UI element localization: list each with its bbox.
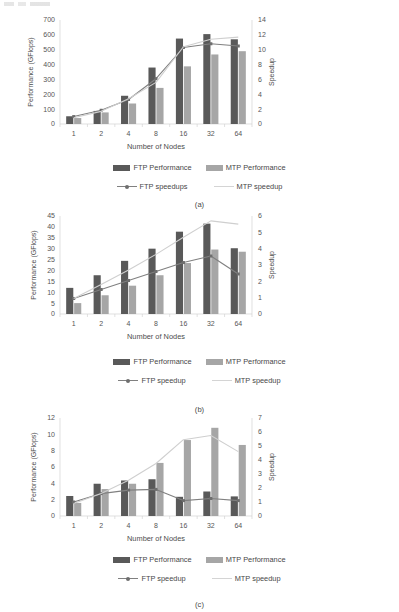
svg-text:32: 32 (207, 320, 215, 327)
svg-text:Speedup: Speedup (268, 453, 276, 481)
svg-text:16: 16 (180, 320, 188, 327)
svg-text:12: 12 (47, 414, 55, 421)
legend-label-mtp-performance: MTP Performance (226, 358, 286, 365)
svg-text:5: 5 (258, 442, 262, 449)
svg-text:700: 700 (43, 16, 55, 23)
svg-text:200: 200 (43, 91, 55, 98)
svg-text:16: 16 (180, 522, 188, 529)
ftp-bar (148, 68, 155, 124)
ftp-speedup-marker (237, 45, 240, 48)
legend-item-ftp-performance[interactable]: FTP Performance (113, 164, 191, 171)
legend-label-mtp-performance: MTP Performance (226, 164, 286, 171)
svg-text:12: 12 (258, 31, 266, 38)
legend-label-mtp-speedup: MTP speedup (235, 377, 281, 384)
mtp-bar (239, 445, 246, 516)
legend-item-ftp-speedup[interactable]: FTP speedups (117, 183, 188, 190)
svg-text:30: 30 (47, 245, 55, 252)
ftp-speedup-marker (209, 42, 212, 45)
mtp-line-swatch-icon (212, 575, 232, 582)
svg-text:5: 5 (258, 229, 262, 236)
legend-label-ftp-speedup: FTP speedup (141, 377, 185, 384)
legend-item-mtp-speedup[interactable]: MTP speedup (212, 377, 281, 384)
mtp-bar-swatch-icon (206, 359, 223, 365)
mtp-bar-swatch-icon (206, 165, 223, 171)
legend-item-mtp-speedup[interactable]: MTP speedup (212, 575, 281, 582)
legend-item-ftp-performance[interactable]: FTP Performance (113, 358, 191, 365)
legend-label-ftp-performance: FTP Performance (133, 358, 191, 365)
legend-label-ftp-performance: FTP Performance (133, 164, 191, 171)
svg-text:32: 32 (207, 522, 215, 529)
chart-a-svg: 0100200300400500600700024681012141248163… (0, 0, 399, 160)
svg-text:25: 25 (47, 256, 55, 263)
legend-item-mtp-speedup[interactable]: MTP speedup (214, 183, 283, 190)
mtp-bar (74, 503, 81, 516)
legend-item-ftp-speedup[interactable]: FTP speedup (118, 575, 185, 582)
svg-text:0: 0 (51, 512, 55, 519)
ftp-bar (94, 484, 101, 516)
mtp-bar (74, 118, 81, 124)
legend-item-ftp-speedup[interactable]: FTP speedup (118, 377, 185, 384)
legend-item-mtp-performance[interactable]: MTP Performance (206, 358, 286, 365)
svg-text:0: 0 (258, 512, 262, 519)
svg-text:Speedup: Speedup (268, 58, 276, 86)
legend-label-ftp-speedup: FTP speedup (141, 575, 185, 582)
mtp-line-swatch-icon (214, 183, 234, 190)
svg-text:4: 4 (127, 320, 131, 327)
ftp-bar (66, 496, 73, 516)
ftp-bar (231, 39, 238, 124)
svg-text:45: 45 (47, 212, 55, 219)
mtp-bar (129, 484, 136, 516)
svg-text:6: 6 (51, 463, 55, 470)
ftp-bar (94, 275, 101, 314)
figure-c: 024681012012345671248163264Number of Nod… (0, 404, 399, 609)
svg-text:64: 64 (234, 130, 242, 137)
svg-text:500: 500 (43, 46, 55, 53)
svg-text:1: 1 (72, 320, 76, 327)
mtp-bar (211, 428, 218, 516)
svg-text:64: 64 (234, 522, 242, 529)
svg-text:3: 3 (258, 470, 262, 477)
figure-b: 05101520253035404501234561248163264Numbe… (0, 204, 399, 404)
chart-c-legend: FTP Performance MTP Performance FTP spee… (75, 552, 325, 609)
legend-item-mtp-performance[interactable]: MTP Performance (206, 164, 286, 171)
legend-item-mtp-performance[interactable]: MTP Performance (206, 556, 286, 563)
svg-text:0: 0 (51, 120, 55, 127)
svg-text:5: 5 (51, 300, 55, 307)
svg-text:14: 14 (258, 16, 266, 23)
svg-text:8: 8 (154, 522, 158, 529)
legend-label-mtp-speedup: MTP speedup (237, 183, 283, 190)
ftp-bar (203, 34, 210, 124)
ftp-speedup-marker (182, 261, 185, 264)
svg-text:32: 32 (207, 130, 215, 137)
legend-label-ftp-speedup: FTP speedups (140, 183, 188, 190)
ftp-bar (66, 288, 73, 314)
ftp-bar (148, 479, 155, 516)
svg-text:2: 2 (99, 320, 103, 327)
ftp-speedup-marker (155, 77, 158, 80)
svg-text:2: 2 (258, 278, 262, 285)
svg-text:15: 15 (47, 278, 55, 285)
svg-text:Performance (GFlops): Performance (GFlops) (30, 432, 38, 501)
ftp-speedup-marker (182, 499, 185, 502)
mtp-bar (156, 88, 163, 124)
mtp-bar (184, 263, 191, 314)
ftp-bar-swatch-icon (113, 359, 130, 365)
svg-text:600: 600 (43, 31, 55, 38)
svg-text:10: 10 (47, 431, 55, 438)
mtp-bar-swatch-icon (206, 557, 223, 563)
svg-text:Number of Nodes: Number of Nodes (127, 534, 185, 543)
svg-text:10: 10 (47, 289, 55, 296)
ftp-speedup-marker (155, 488, 158, 491)
svg-text:6: 6 (258, 428, 262, 435)
svg-text:64: 64 (234, 320, 242, 327)
legend-item-ftp-performance[interactable]: FTP Performance (113, 556, 191, 563)
ftp-speedup-marker (209, 255, 212, 258)
mtp-bar (184, 66, 191, 124)
mtp-bar (184, 440, 191, 516)
svg-text:4: 4 (258, 245, 262, 252)
svg-text:6: 6 (258, 76, 262, 83)
ftp-line-swatch-icon (117, 183, 137, 190)
mtp-bar (102, 295, 109, 314)
svg-text:Number of Nodes: Number of Nodes (127, 332, 185, 341)
svg-text:2: 2 (99, 130, 103, 137)
